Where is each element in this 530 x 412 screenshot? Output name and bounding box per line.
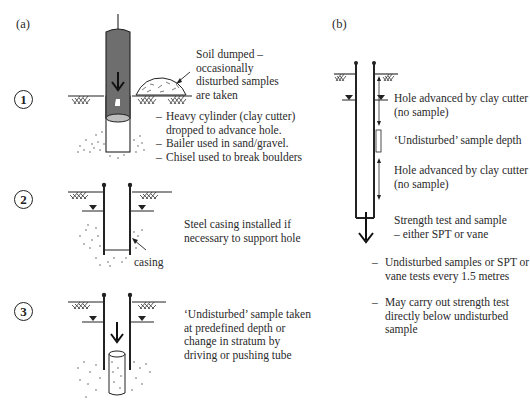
text-line: change in stratum by (184, 335, 311, 349)
shell-and-auger-boring-diagram: (a) (b) 1 2 3 Soil dumped – occasionally… (0, 0, 530, 412)
bullet-line: –May carry out strength test (372, 296, 509, 310)
casing-label: casing (134, 256, 163, 270)
step2-borehole (68, 183, 172, 267)
step-number-3: 3 (14, 302, 33, 321)
callout-line: disturbed samples (196, 75, 279, 89)
step1-bullets: –Heavy cylinder (clay cutter) dropped to… (156, 110, 302, 164)
bullet-line: directly below undisturbed (372, 310, 509, 324)
panel-b-label: (b) (332, 18, 347, 32)
callout-line: occasionally (196, 62, 279, 76)
bullet-item-continuation: dropped to advance hole. (156, 124, 302, 138)
callout-line: Soil dumped – (196, 48, 279, 62)
text-line: – either SPT or vane (394, 228, 507, 242)
panel-b-bullet-2: –May carry out strength test directly be… (372, 296, 509, 337)
bullet-line: –Undisturbed samples or SPT or (372, 256, 529, 270)
bullet-item: –Chisel used to break boulders (156, 151, 302, 165)
annotation-undisturbed-sample-depth: ‘Undisturbed’ sample depth (394, 134, 522, 148)
text-line: Strength test and sample (394, 214, 507, 228)
text-line: at predefined depth or (184, 322, 311, 336)
step3-borehole (68, 293, 166, 398)
step-number-1: 1 (14, 90, 33, 109)
text-line: Hole advanced by clay cutter (394, 92, 528, 106)
text-line: ‘Undisturbed’ sample depth (394, 134, 522, 148)
panel-a-label: (a) (16, 18, 30, 32)
bullet-item: –Bailer used in sand/gravel. (156, 137, 302, 151)
panel-b-borehole (334, 61, 398, 242)
annotation-hole-advanced-2: Hole advanced by clay cutter (no sample) (394, 164, 528, 191)
text-line: ‘Undisturbed’ sample taken (184, 308, 311, 322)
step1-callout: Soil dumped – occasionally disturbed sam… (196, 48, 279, 102)
text-line: Hole advanced by clay cutter (394, 164, 528, 178)
text-line: (no sample) (394, 106, 528, 120)
annotation-strength-test: Strength test and sample – either SPT or… (394, 214, 507, 241)
text-line: necessary to support hole (184, 232, 301, 246)
panel-b-bullet-1: –Undisturbed samples or SPT or vane test… (372, 256, 529, 283)
text-line: (no sample) (394, 178, 528, 192)
step2-description: Steel casing installed if necessary to s… (184, 218, 301, 245)
bullet-item: –Heavy cylinder (clay cutter) (156, 110, 302, 124)
step-number-2: 2 (14, 190, 33, 209)
callout-line: are taken (196, 89, 279, 103)
bullet-line: vane tests every 1.5 metres (372, 270, 529, 284)
bullet-line: sample (372, 323, 509, 337)
annotation-hole-advanced-1: Hole advanced by clay cutter (no sample) (394, 92, 528, 119)
text-line: driving or pushing tube (184, 349, 311, 363)
step3-description: ‘Undisturbed’ sample taken at predefined… (184, 308, 311, 362)
text-line: Steel casing installed if (184, 218, 301, 232)
